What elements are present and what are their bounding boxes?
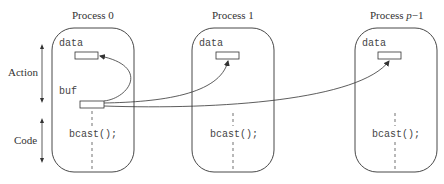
arrow-to-process-1 <box>104 61 228 103</box>
process-title: Process p−1 <box>370 9 424 21</box>
buf-label: buf <box>59 86 77 97</box>
buf-buffer <box>80 101 104 108</box>
arrow-to-process-0 <box>100 56 131 101</box>
process-box <box>52 28 134 172</box>
code-axis: Code <box>14 118 44 163</box>
process-title: Process 1 <box>212 9 254 21</box>
action-axis: Action <box>8 44 44 103</box>
action-label: Action <box>8 66 38 78</box>
data-label: data <box>59 38 83 49</box>
arrow-down-icon <box>40 158 44 163</box>
process-1: Process 1 data bcast(); <box>192 9 274 172</box>
code-label: Code <box>14 134 37 146</box>
bcast-call: bcast(); <box>69 129 117 140</box>
data-label: data <box>199 38 223 49</box>
bcast-call: bcast(); <box>210 129 258 140</box>
data-buffer <box>378 52 401 59</box>
arrow-to-process-p-minus-1 <box>104 61 389 107</box>
broadcast-diagram: Action Code Process 0 data buf bcast(); … <box>0 0 444 184</box>
data-buffer <box>216 52 239 59</box>
process-title: Process 0 <box>72 9 114 21</box>
process-0: Process 0 data buf bcast(); <box>52 9 134 172</box>
broadcast-arrows <box>100 56 389 107</box>
arrow-up-icon <box>40 118 44 123</box>
bcast-call: bcast(); <box>372 129 420 140</box>
process-box <box>355 28 437 172</box>
arrow-down-icon <box>40 98 44 103</box>
arrow-up-icon <box>40 44 44 49</box>
process-p-minus-1: Process p−1 data bcast(); <box>355 9 437 172</box>
data-label: data <box>362 38 386 49</box>
data-buffer <box>75 52 98 59</box>
